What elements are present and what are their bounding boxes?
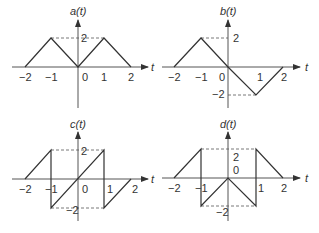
- t-label: t: [151, 173, 155, 185]
- xtick-2: 2: [128, 71, 134, 83]
- xtick-2: 2: [132, 183, 138, 195]
- ytick-m2: −2: [216, 206, 229, 218]
- xtick-0: 0: [219, 71, 225, 83]
- plot-d: d(t) t 2 0 −2 −2 −1 1 2: [162, 118, 309, 221]
- xtick-m2: −2: [168, 182, 181, 194]
- ytick-2: 2: [233, 151, 239, 163]
- xtick-2: 2: [281, 182, 287, 194]
- plot-a: a(t) t 2 −2 −1 0 1 2: [12, 5, 155, 108]
- plot-c: c(t) t 2 −2 −2 −1 0 1 2: [12, 118, 155, 221]
- xtick-m2: −2: [19, 71, 32, 83]
- ytick-0: 0: [233, 164, 239, 176]
- t-label: t: [151, 61, 155, 73]
- plot-title: d(t): [220, 118, 237, 130]
- ytick-2: 2: [81, 145, 87, 157]
- xtick-m2: −2: [168, 71, 181, 83]
- xtick-0: 0: [82, 183, 88, 195]
- plot-title: a(t): [70, 5, 87, 17]
- xtick-1: 1: [258, 182, 264, 194]
- ytick-m2: −2: [212, 88, 225, 100]
- xtick-2: 2: [281, 71, 287, 83]
- xtick-1: 1: [107, 183, 113, 195]
- plot-b: b(t) t 2 −2 −2 −1 0 1 2: [162, 5, 309, 108]
- xtick-1: 1: [257, 71, 263, 83]
- t-label: t: [305, 61, 309, 73]
- xtick-m1: −1: [45, 183, 58, 195]
- signal-plots: a(t) t 2 −2 −1 0 1 2 b(t) t 2 −2 −2 −1 0…: [0, 0, 319, 233]
- plot-title: c(t): [70, 118, 86, 130]
- t-label: t: [305, 172, 309, 184]
- xtick-m1: −1: [195, 71, 208, 83]
- ytick-2: 2: [233, 32, 239, 44]
- ytick-m2: −2: [66, 204, 79, 216]
- ytick-2: 2: [81, 32, 87, 44]
- plot-title: b(t): [220, 5, 237, 17]
- xtick-1: 1: [101, 71, 107, 83]
- xtick-m1: −1: [195, 182, 208, 194]
- xtick-m1: −1: [45, 71, 58, 83]
- xtick-0: 0: [82, 71, 88, 83]
- xtick-m2: −2: [19, 183, 32, 195]
